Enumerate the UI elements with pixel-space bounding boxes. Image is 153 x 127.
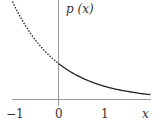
y-axis-label: p (x)	[66, 2, 94, 16]
tick-label-neg1: −1	[6, 107, 24, 121]
tick-label-0: 0	[55, 107, 63, 121]
tick-label-1: 1	[101, 107, 109, 121]
curve-solid-positive-x	[59, 64, 151, 95]
curve-dotted-negative-x	[13, 2, 59, 64]
chart: p (x) −1 0 1 x	[0, 0, 153, 127]
x-axis-label: x	[142, 107, 149, 121]
